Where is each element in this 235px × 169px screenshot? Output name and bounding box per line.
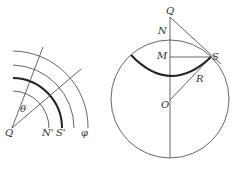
label-q-right: Q [166,5,174,16]
diagram-canvas: Q θ N' S' φ Q N M S R O [0,0,235,169]
label-n: N [157,25,168,36]
label-o: O [161,99,169,110]
left-diagram: Q θ N' S' φ [5,47,88,138]
label-theta: θ [20,103,26,114]
arc-outer [13,51,88,128]
label-q-left: Q [5,127,13,138]
label-m: M [156,50,168,61]
label-n-prime: N' [41,127,54,138]
label-r: R [195,73,204,84]
label-s-prime: S' [56,127,66,138]
ray-steep [12,47,43,128]
label-phi: φ [81,127,88,138]
label-s: S [212,51,219,62]
arc-third [13,65,74,128]
ray-shallow [12,69,81,128]
right-diagram: Q N M S R O [111,5,229,158]
